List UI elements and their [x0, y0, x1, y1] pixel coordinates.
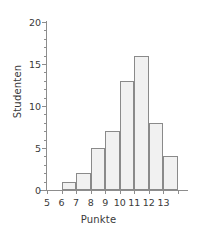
x-tick-label: 11	[128, 197, 140, 208]
x-tick	[178, 190, 179, 194]
histogram-bar	[134, 56, 149, 190]
y-tick-minor	[44, 30, 47, 31]
x-tick-label: 8	[88, 197, 94, 208]
y-tick-minor	[44, 81, 47, 82]
x-tick-label: 12	[143, 197, 155, 208]
x-tick-label: 5	[44, 197, 50, 208]
y-tick-label: 0	[35, 185, 41, 196]
plot-area: 05101520 5678910111213	[47, 22, 178, 190]
histogram-bar	[76, 173, 91, 190]
y-tick-label: 20	[29, 17, 41, 28]
y-tick-major	[42, 64, 47, 65]
histogram-bar	[120, 81, 135, 190]
x-tick-label: 10	[114, 197, 126, 208]
y-tick-label: 10	[29, 101, 41, 112]
x-tick	[62, 190, 63, 194]
y-tick-minor	[44, 123, 47, 124]
y-tick-minor	[44, 114, 47, 115]
y-tick-minor	[44, 47, 47, 48]
x-tick	[91, 190, 92, 194]
y-tick-minor	[44, 89, 47, 90]
histogram-chart: Studenten Punkte 05101520 5678910111213	[0, 0, 197, 236]
x-tick-label: 7	[73, 197, 79, 208]
x-tick	[105, 190, 106, 194]
histogram-bar	[163, 156, 178, 190]
x-tick	[134, 190, 135, 194]
y-tick-label: 5	[35, 143, 41, 154]
x-tick-label: 9	[102, 197, 108, 208]
x-tick	[120, 190, 121, 194]
histogram-bar	[105, 131, 120, 190]
histogram-bar	[91, 148, 106, 190]
y-tick-minor	[44, 72, 47, 73]
y-tick-minor	[44, 98, 47, 99]
x-tick	[163, 190, 164, 194]
y-tick-label: 15	[29, 59, 41, 70]
y-tick-minor	[44, 56, 47, 57]
x-tick	[76, 190, 77, 194]
y-tick-minor	[44, 156, 47, 157]
y-tick-major	[42, 22, 47, 23]
x-tick	[47, 190, 48, 194]
histogram-bar	[62, 182, 77, 190]
y-tick-major	[42, 148, 47, 149]
y-tick-minor	[44, 165, 47, 166]
y-tick-minor	[44, 173, 47, 174]
x-axis-title: Punkte	[0, 214, 197, 225]
y-axis-title: Studenten	[12, 47, 23, 137]
y-tick-minor	[44, 140, 47, 141]
y-tick-major	[42, 106, 47, 107]
histogram-bar	[149, 123, 164, 190]
x-tick-label: 13	[157, 197, 169, 208]
x-tick-label: 6	[59, 197, 65, 208]
y-tick-minor	[44, 131, 47, 132]
x-tick	[149, 190, 150, 194]
y-tick-minor	[44, 39, 47, 40]
y-tick-minor	[44, 182, 47, 183]
